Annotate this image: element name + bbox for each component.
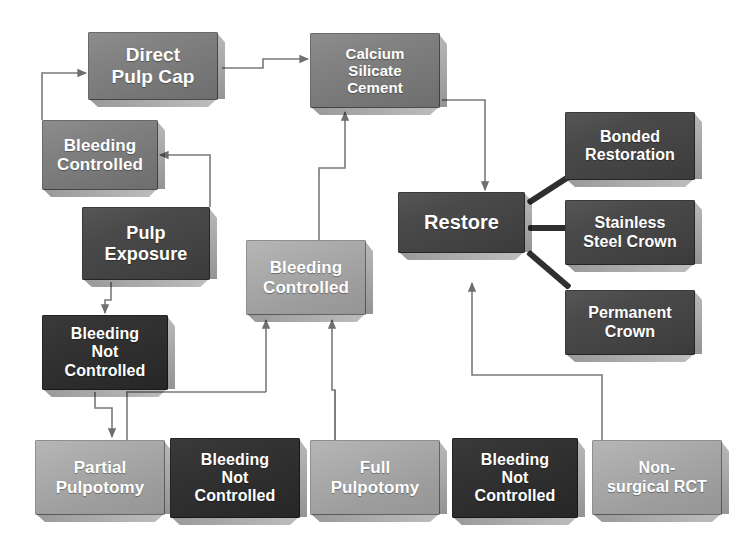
node-bleeding-controlled-1[interactable]: Bleeding Controlled	[42, 120, 158, 190]
node-direct-pulp-cap[interactable]: Direct Pulp Cap	[88, 32, 218, 100]
node-label-restore: Restore	[418, 211, 505, 234]
node-bleeding-not-ctrl-2[interactable]: Bleeding Not Controlled	[170, 438, 300, 518]
node-label-bleeding-not-ctrl-2: Bleeding Not Controlled	[189, 451, 282, 506]
node-label-pulp-exposure: Pulp Exposure	[99, 223, 194, 264]
edge-bnc1-to-partial	[95, 392, 112, 437]
node-label-bleeding-controlled-1: Bleeding Controlled	[51, 136, 149, 175]
edge-direct-pulp-cap-to-csc	[222, 59, 308, 68]
edge-pulp-exposure-to-bleeding1	[160, 155, 210, 207]
node-bleeding-not-ctrl-1[interactable]: Bleeding Not Controlled	[42, 315, 168, 390]
node-label-bleeding-not-ctrl-1: Bleeding Not Controlled	[59, 325, 152, 380]
node-label-bonded-restoration: Bonded Restoration	[579, 128, 681, 164]
node-label-non-surgical-rct: Non- surgical RCT	[601, 459, 713, 495]
edge-csc-to-restore	[442, 100, 485, 190]
edge-full-to-bleeding2	[332, 320, 335, 440]
flowchart-canvas: Direct Pulp CapCalcium Silicate CementBl…	[0, 0, 754, 541]
node-label-direct-pulp-cap: Direct Pulp Cap	[105, 44, 200, 87]
node-label-bleeding-not-ctrl-3: Bleeding Not Controlled	[469, 451, 562, 506]
edge-partial-to-trunk	[127, 392, 266, 440]
node-label-permanent-crown: Permanent Crown	[582, 304, 678, 340]
node-label-calcium-silicate: Calcium Silicate Cement	[339, 45, 410, 96]
node-label-bleeding-controlled-2: Bleeding Controlled	[257, 258, 355, 297]
node-permanent-crown[interactable]: Permanent Crown	[565, 290, 695, 355]
node-label-stainless-steel-crown: Stainless Steel Crown	[577, 214, 683, 250]
node-pulp-exposure[interactable]: Pulp Exposure	[82, 207, 210, 280]
node-calcium-silicate[interactable]: Calcium Silicate Cement	[310, 33, 440, 108]
link-restore-stainless	[528, 225, 570, 231]
edge-bleeding2-to-csc	[319, 112, 345, 240]
node-bonded-restoration[interactable]: Bonded Restoration	[565, 112, 695, 180]
node-restore[interactable]: Restore	[398, 192, 525, 253]
edge-bleeding1-to-direct-pulp-cap	[42, 73, 86, 120]
node-label-full-pulpotomy: Full Pulpotomy	[325, 458, 426, 497]
node-partial-pulpotomy[interactable]: Partial Pulpotomy	[35, 440, 165, 515]
node-bleeding-not-ctrl-3[interactable]: Bleeding Not Controlled	[452, 438, 578, 518]
node-stainless-steel-crown[interactable]: Stainless Steel Crown	[565, 200, 695, 265]
node-full-pulpotomy[interactable]: Full Pulpotomy	[310, 440, 440, 515]
node-non-surgical-rct[interactable]: Non- surgical RCT	[592, 440, 722, 515]
node-label-partial-pulpotomy: Partial Pulpotomy	[50, 458, 151, 497]
node-bleeding-controlled-2[interactable]: Bleeding Controlled	[246, 240, 366, 315]
